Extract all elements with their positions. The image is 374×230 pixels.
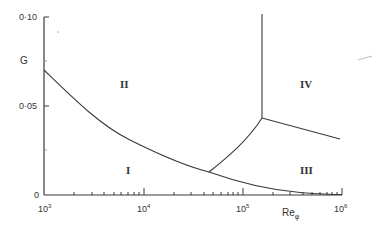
svg-text:104: 104 bbox=[137, 203, 151, 214]
y-tick-label-005: 0·05 bbox=[19, 101, 37, 111]
y-tick-label-010: 0·10 bbox=[19, 12, 37, 22]
boundary-iii-iv-line bbox=[262, 118, 340, 139]
svg-text:105: 105 bbox=[236, 203, 250, 214]
region-label-ii: II bbox=[120, 78, 129, 90]
x-ticks bbox=[74, 188, 342, 195]
region-label-i: I bbox=[126, 164, 130, 176]
x-tick-label-1e6: 106 bbox=[334, 203, 348, 214]
y-axis-label: G bbox=[20, 55, 28, 66]
svg-text:106: 106 bbox=[334, 203, 348, 214]
svg-text:Reφ: Reφ bbox=[282, 207, 300, 221]
x-tick-label-1e3: 103 bbox=[38, 203, 52, 214]
x-tick-label-1e4: 104 bbox=[137, 203, 151, 214]
region-label-iv: IV bbox=[300, 78, 312, 90]
x-axis-label: Reφ bbox=[282, 207, 300, 221]
boundary-ii-iii-curve bbox=[209, 118, 262, 172]
chart: 0 0·05 0·10 G 103 104 105 106 Reφ I II I… bbox=[0, 0, 374, 230]
scan-mark bbox=[358, 56, 372, 60]
x-tick-label-1e5: 105 bbox=[236, 203, 250, 214]
boundary-i-iii-curve bbox=[209, 172, 342, 195]
region-label-iii: III bbox=[300, 164, 313, 176]
y-tick-label-0: 0 bbox=[34, 190, 39, 200]
svg-text:103: 103 bbox=[38, 203, 52, 214]
